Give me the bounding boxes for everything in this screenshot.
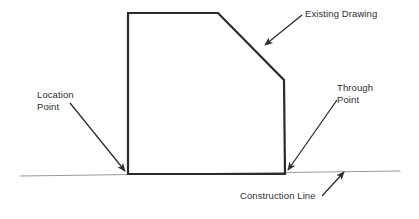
leader-existing-drawing (265, 15, 302, 45)
label-location-point-line2: Point (37, 101, 59, 112)
label-location-point: LocationPoint (37, 89, 74, 112)
label-existing-drawing: Existing Drawing (305, 8, 377, 20)
label-through-point-line1: Through (337, 82, 373, 93)
label-location-point-line1: Location (37, 89, 74, 100)
leader-through-point (288, 100, 337, 170)
diagram-canvas: Existing Drawing LocationPoint ThroughPo… (0, 0, 419, 219)
leader-construction-line (322, 172, 344, 196)
label-through-point: ThroughPoint (337, 82, 373, 105)
existing-drawing-shape (128, 13, 285, 174)
label-construction-line: Construction Line (240, 190, 316, 202)
leader-location-point (70, 103, 125, 171)
label-through-point-line2: Point (337, 94, 359, 105)
